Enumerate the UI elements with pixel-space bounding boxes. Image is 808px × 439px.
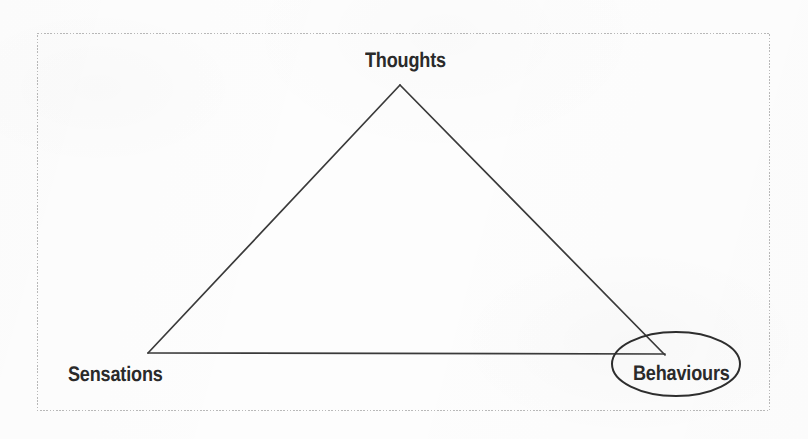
node-label-behaviours: Behaviours bbox=[633, 363, 730, 385]
triangle-edge-thoughts-sensations bbox=[148, 85, 400, 353]
node-label-thoughts: Thoughts bbox=[365, 50, 446, 72]
triangle-edge-sensations-behaviours bbox=[148, 353, 665, 354]
figure-page: Thoughts Sensations Behaviours bbox=[0, 0, 808, 439]
cbt-triangle bbox=[148, 85, 665, 355]
node-label-sensations: Sensations bbox=[68, 364, 163, 386]
triangle-edge-thoughts-behaviours bbox=[400, 85, 665, 355]
